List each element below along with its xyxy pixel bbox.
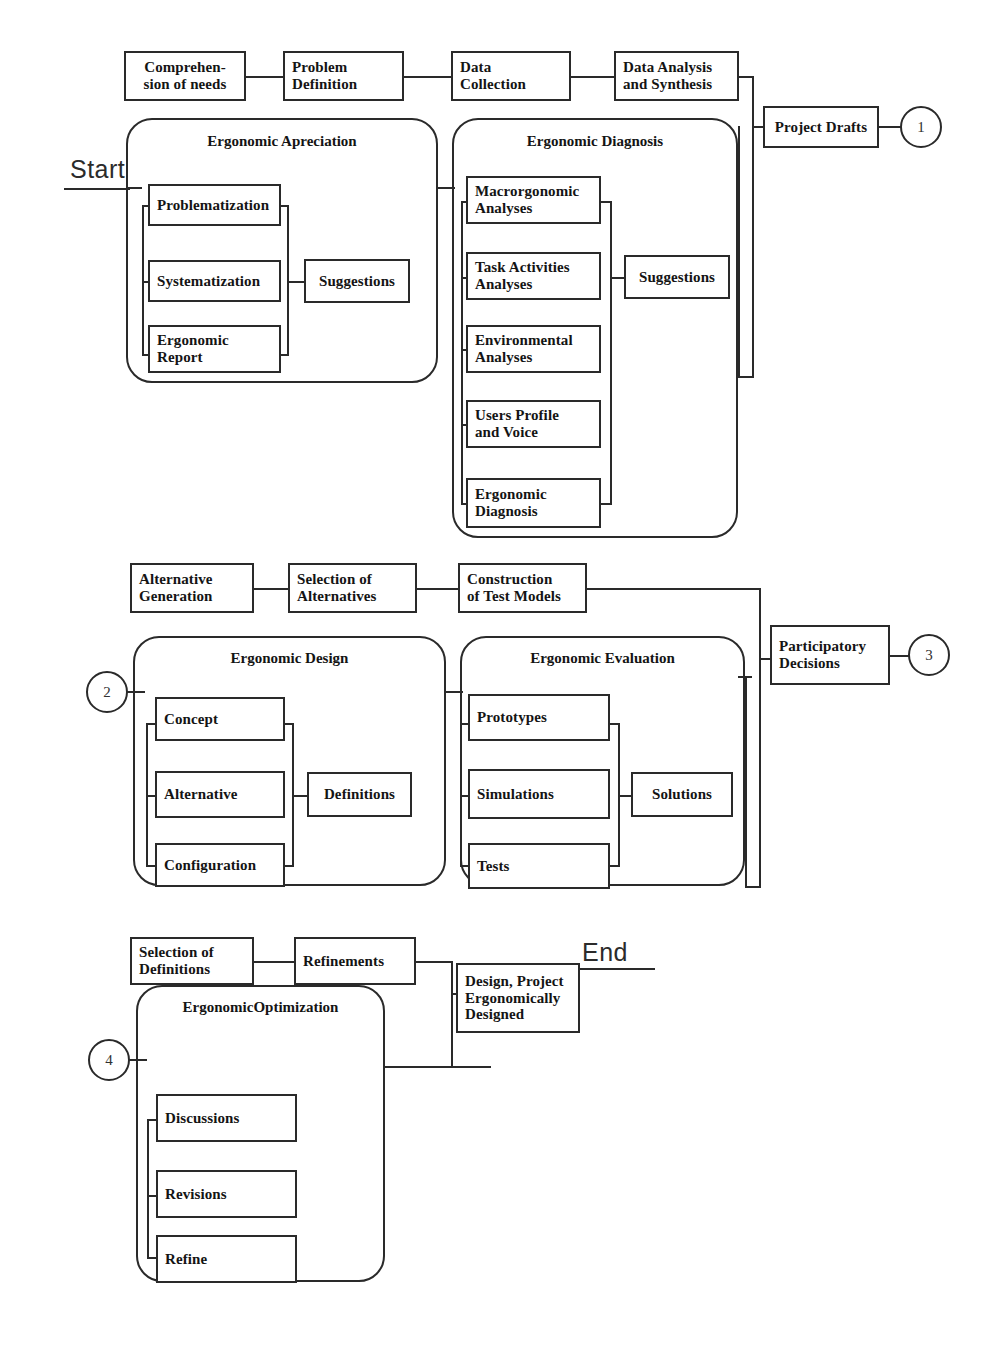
step-label: Alternative Generation: [139, 571, 213, 605]
connector-node-4[interactable]: 4: [88, 1039, 130, 1081]
connector-node2-to-design-panel: [127, 691, 145, 693]
item-label: Users Profile and Voice: [475, 407, 559, 441]
step-problem-definition[interactable]: Problem Definition: [283, 51, 404, 101]
item-label: Ergonomic Report: [157, 332, 229, 366]
item-task-activities-analyses[interactable]: Task Activities Analyses: [466, 252, 601, 300]
start-underline: [64, 188, 130, 190]
step-selection-of-definitions[interactable]: Selection of Definitions: [130, 937, 254, 985]
item-label: Tests: [477, 858, 509, 875]
panel-title-ergonomic-evaluation: Ergonomic Evaluation: [460, 650, 745, 667]
spine-phase2-vertical: [759, 588, 761, 888]
step-label: Selection of Alternatives: [297, 571, 377, 605]
item-label: Simulations: [477, 786, 554, 803]
step-data-analysis-and-synthesis[interactable]: Data Analysis and Synthesis: [614, 51, 739, 101]
step-label: Data Analysis and Synthesis: [623, 59, 712, 93]
end-endpoint-label: End: [582, 938, 628, 967]
step-label: Construction of Test Models: [467, 571, 561, 605]
connector-node-3[interactable]: 3: [908, 634, 950, 676]
step-label: Problem Definition: [292, 59, 357, 93]
step-selection-of-alternatives[interactable]: Selection of Alternatives: [288, 563, 417, 613]
connector-spine-to-optimization-return: [451, 1066, 491, 1068]
bracket-optimization-left: [147, 1119, 149, 1259]
connector-node-1[interactable]: 1: [900, 106, 942, 148]
connector-p3-step1-step2: [253, 961, 295, 963]
spine-phase2-inner-vertical: [745, 676, 747, 888]
item-ergonomic-report[interactable]: Ergonomic Report: [148, 325, 281, 373]
item-label: Ergonomic Diagnosis: [475, 486, 547, 520]
item-label: Environmental Analyses: [475, 332, 573, 366]
item-label: Concept: [164, 711, 218, 728]
output-design-project-ergonomically-designed[interactable]: Design, Project Ergonomically Designed: [456, 963, 580, 1033]
connector-apreciation-to-diagnosis: [437, 187, 455, 189]
step-label: Refinements: [303, 953, 384, 970]
connector-design-to-definitions: [292, 795, 308, 797]
connector-refinements-to-spine: [415, 961, 453, 963]
result-label: Suggestions: [319, 273, 395, 290]
connector-project-drafts-to-node1: [878, 126, 901, 128]
connector-node-label: 3: [925, 647, 933, 664]
item-systematization[interactable]: Systematization: [148, 260, 281, 302]
item-prototypes[interactable]: Prototypes: [468, 694, 610, 741]
panel-title-ergonomic-diagnosis: Ergonomic Diagnosis: [452, 133, 738, 150]
step-construction-of-test-models[interactable]: Construction of Test Models: [458, 563, 587, 613]
step-data-collection[interactable]: Data Collection: [451, 51, 571, 101]
flowchart-canvas: Comprehen- sion of needs Problem Definit…: [0, 0, 1004, 1350]
output-label: Design, Project Ergonomically Designed: [465, 973, 564, 1023]
step-label: Comprehen- sion of needs: [144, 59, 227, 93]
connector-optimization-to-spine: [384, 1066, 452, 1068]
connector-evaluation-to-solutions: [618, 795, 632, 797]
result-definitions[interactable]: Definitions: [307, 772, 412, 817]
connector-node4-to-optimization: [129, 1059, 147, 1061]
item-configuration[interactable]: Configuration: [155, 843, 285, 887]
item-alternative[interactable]: Alternative: [155, 771, 285, 818]
panel-title-ergonomic-apreciation: Ergonomic Apreciation: [126, 133, 438, 150]
item-problematization[interactable]: Problematization: [148, 184, 281, 226]
step-label: Selection of Definitions: [139, 944, 214, 978]
connector-design-to-evaluation: [445, 691, 463, 693]
result-label: Solutions: [652, 786, 712, 803]
item-label: Discussions: [165, 1110, 239, 1127]
connector-step2-step3: [403, 76, 451, 78]
connector-evaluation-to-spine: [738, 676, 752, 678]
item-ergonomic-diagnosis[interactable]: Ergonomic Diagnosis: [466, 478, 601, 528]
item-tests[interactable]: Tests: [468, 843, 610, 889]
connector-p2-step2-step3: [416, 588, 459, 590]
connector-diagnosis-to-suggestions: [610, 277, 625, 279]
result-suggestions-apreciation[interactable]: Suggestions: [304, 259, 410, 303]
connector-spine-to-diagnosis-return: [738, 376, 754, 378]
item-label: Revisions: [165, 1186, 227, 1203]
result-label: Definitions: [324, 786, 395, 803]
item-simulations[interactable]: Simulations: [468, 769, 610, 819]
output-project-drafts[interactable]: Project Drafts: [763, 106, 879, 148]
output-participatory-decisions[interactable]: Participatory Decisions: [770, 625, 890, 685]
connector-p2-step3-to-spine: [586, 588, 761, 590]
connector-node-2[interactable]: 2: [86, 671, 128, 713]
item-label: Alternative: [164, 786, 238, 803]
connector-participatory-to-node3: [889, 655, 909, 657]
item-label: Refine: [165, 1251, 207, 1268]
step-alternative-generation[interactable]: Alternative Generation: [130, 563, 254, 613]
item-refine[interactable]: Refine: [156, 1235, 297, 1283]
item-concept[interactable]: Concept: [155, 697, 285, 741]
item-label: Problematization: [157, 197, 269, 214]
item-discussions[interactable]: Discussions: [156, 1094, 297, 1142]
item-environmental-analyses[interactable]: Environmental Analyses: [466, 325, 601, 373]
result-solutions[interactable]: Solutions: [631, 772, 733, 817]
panel-title-ergonomic-design: Ergonomic Design: [133, 650, 446, 667]
item-users-profile-and-voice[interactable]: Users Profile and Voice: [466, 400, 601, 448]
item-revisions[interactable]: Revisions: [156, 1170, 297, 1218]
result-suggestions-diagnosis[interactable]: Suggestions: [624, 255, 730, 299]
spine-phase1-vertical: [752, 76, 754, 378]
item-macrorgonomic-analyses[interactable]: Macrorgonomic Analyses: [466, 176, 601, 224]
bracket-apreciation-right: [287, 205, 289, 355]
step-comprehension-of-needs[interactable]: Comprehen- sion of needs: [124, 51, 246, 101]
bracket-diagnosis-left: [461, 201, 463, 503]
output-label: Participatory Decisions: [779, 638, 866, 672]
output-label: Project Drafts: [775, 119, 867, 136]
item-label: Prototypes: [477, 709, 547, 726]
step-refinements[interactable]: Refinements: [294, 937, 416, 985]
connector-apreciation-to-suggestions: [287, 281, 305, 283]
item-label: Task Activities Analyses: [475, 259, 570, 293]
connector-final-output-to-end: [579, 968, 655, 970]
item-label: Systematization: [157, 273, 260, 290]
